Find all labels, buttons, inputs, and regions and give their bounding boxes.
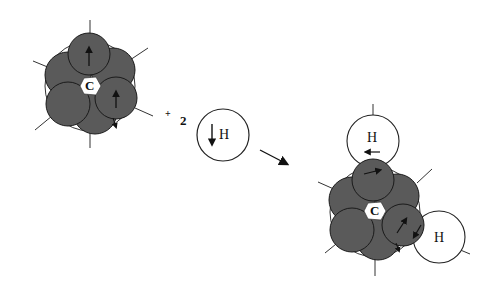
- reaction-diagram: C + 2 H H C H: [0, 0, 492, 288]
- product-molecule: [318, 104, 470, 276]
- product-hydrogen-right-label: H: [434, 231, 444, 245]
- reactant-hydrogen-label: H: [219, 128, 229, 142]
- coefficient: 2: [180, 114, 187, 127]
- plus-sign: +: [165, 109, 171, 119]
- diagram-canvas: [0, 0, 492, 288]
- reaction-arrow: [260, 150, 287, 164]
- product-carbon-label: C: [370, 204, 379, 217]
- reactant-carbon-label: C: [85, 79, 94, 92]
- product-hydrogen-top-label: H: [367, 131, 377, 145]
